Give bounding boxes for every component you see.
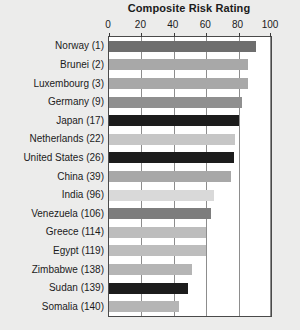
- bar-row: [109, 74, 271, 93]
- bar-row: [109, 130, 271, 149]
- bar: [109, 301, 179, 312]
- bar-row: [109, 204, 271, 223]
- bar: [109, 59, 248, 70]
- bar-row: [109, 260, 271, 279]
- y-tick-label: United States (26): [0, 151, 104, 162]
- x-tick-label: 80: [232, 19, 243, 30]
- y-tick-label: Luxembourg (3): [0, 77, 104, 88]
- y-tick-label: Venezuela (106): [0, 207, 104, 218]
- x-tick-label: 60: [200, 19, 211, 30]
- bar-row: [109, 111, 271, 130]
- x-axis-tick-labels: 020406080100: [0, 19, 300, 33]
- bar: [109, 245, 206, 256]
- bar-row: [109, 223, 271, 242]
- y-tick-label: Norway (1): [0, 40, 104, 51]
- bar: [109, 227, 206, 238]
- x-tick-label: 20: [135, 19, 146, 30]
- bar-row: [109, 149, 271, 168]
- plot-area: [108, 36, 272, 317]
- bar: [109, 264, 192, 275]
- bar-row: [109, 56, 271, 75]
- y-tick-label: China (39): [0, 170, 104, 181]
- bar: [109, 283, 188, 294]
- bar: [109, 208, 211, 219]
- y-axis-category-labels: Norway (1)Brunei (2)Luxembourg (3)German…: [0, 36, 104, 315]
- bar-row: [109, 242, 271, 261]
- x-tick-label: 40: [167, 19, 178, 30]
- bar-rows: [109, 37, 271, 316]
- bar-row: [109, 297, 271, 316]
- bar: [109, 78, 248, 89]
- x-tick-label: 0: [105, 19, 111, 30]
- y-tick-label: Germany (9): [0, 96, 104, 107]
- bar-row: [109, 37, 271, 56]
- bar: [109, 171, 231, 182]
- y-tick-label: Egypt (119): [0, 244, 104, 255]
- bar: [109, 152, 234, 163]
- bar-row: [109, 93, 271, 112]
- y-tick-label: Japan (17): [0, 114, 104, 125]
- y-tick-label: Brunei (2): [0, 58, 104, 69]
- bar-row: [109, 186, 271, 205]
- bar: [109, 190, 214, 201]
- chart-figure: Composite Risk Rating 020406080100 Norwa…: [0, 0, 300, 330]
- bar-row: [109, 167, 271, 186]
- bar: [109, 134, 235, 145]
- y-tick-label: Greece (114): [0, 226, 104, 237]
- bar: [109, 97, 242, 108]
- y-tick-label: India (96): [0, 189, 104, 200]
- bar-row: [109, 279, 271, 298]
- y-tick-label: Zimbabwe (138): [0, 263, 104, 274]
- chart-title: Composite Risk Rating: [108, 2, 270, 14]
- bar: [109, 41, 256, 52]
- y-tick-label: Sudan (139): [0, 282, 104, 293]
- y-tick-label: Somalia (140): [0, 300, 104, 311]
- bar: [109, 115, 239, 126]
- y-tick-label: Netherlands (22): [0, 133, 104, 144]
- x-tick-label: 100: [262, 19, 279, 30]
